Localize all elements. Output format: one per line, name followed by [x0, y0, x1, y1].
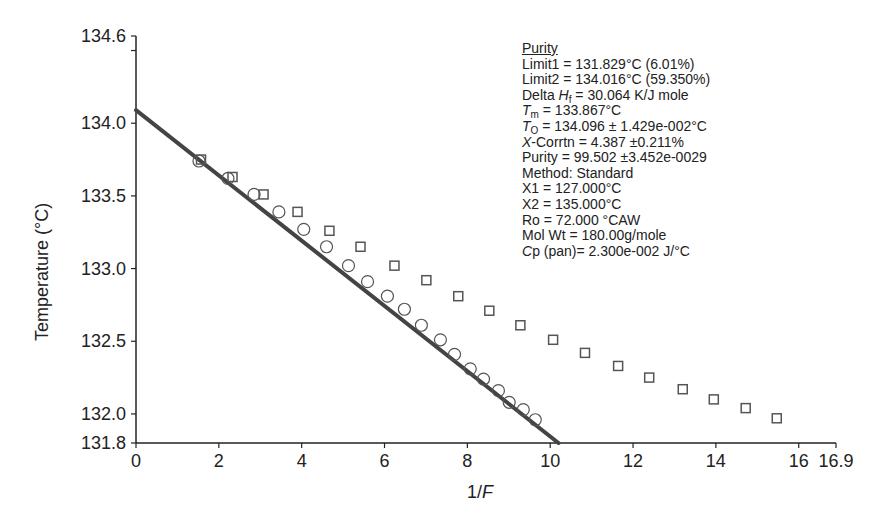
square-marker — [454, 292, 463, 301]
x-tick-label: 2 — [214, 451, 224, 471]
square-marker — [580, 348, 589, 357]
circle-marker — [298, 223, 310, 235]
square-marker — [709, 395, 718, 404]
circle-marker — [381, 290, 393, 302]
circle-marker — [362, 276, 374, 288]
x-tick-label: 0 — [131, 451, 141, 471]
info-x1: X1 = 127.000°C — [522, 181, 710, 197]
square-marker — [325, 226, 334, 235]
square-marker — [293, 207, 302, 216]
square-marker — [485, 306, 494, 315]
info-x2: X2 = 135.000°C — [522, 197, 710, 213]
x-tick-label: 12 — [623, 451, 643, 471]
square-marker — [549, 335, 558, 344]
y-tick-label: 132.5 — [81, 331, 126, 351]
square-marker — [772, 414, 781, 423]
y-tick-label: 131.8 — [81, 433, 126, 453]
info-title: Purity — [522, 41, 710, 57]
info-tm: Tm = 133.867°C — [522, 103, 710, 119]
circle-marker — [342, 260, 354, 272]
circle-marker — [449, 348, 461, 360]
square-marker — [356, 242, 365, 251]
info-limit1: Limit1 = 131.829°C (6.01%) — [522, 57, 710, 73]
x-tick-label: 6 — [380, 451, 390, 471]
x-tick-label: 16.9 — [818, 451, 853, 471]
info-ro: Ro = 72.000 °CAW — [522, 213, 710, 229]
y-tick-label: 134.6 — [81, 26, 126, 46]
y-axis-title: Temperature (°C) — [32, 203, 52, 341]
x-tick-label: 16 — [789, 451, 809, 471]
purity-chart: 024681012141616.9131.8132.0132.5133.0133… — [0, 0, 888, 520]
circle-marker — [434, 334, 446, 346]
square-marker — [390, 261, 399, 270]
square-marker — [678, 385, 687, 394]
circle-marker — [415, 319, 427, 331]
info-purity: Purity = 99.502 ±3.452e-0029 — [522, 150, 710, 166]
y-tick-label: 134.0 — [81, 113, 126, 133]
x-tick-label: 4 — [297, 451, 307, 471]
circle-marker — [248, 188, 260, 200]
info-molwt: Mol Wt = 180.00g/mole — [522, 228, 710, 244]
info-method: Method: Standard — [522, 166, 710, 182]
x-tick-label: 10 — [540, 451, 560, 471]
square-marker — [422, 276, 431, 285]
y-tick-label: 132.0 — [81, 404, 126, 424]
y-tick-label: 133.0 — [81, 259, 126, 279]
fit-line — [136, 110, 558, 443]
circle-marker — [273, 206, 285, 218]
x-tick-label: 14 — [706, 451, 726, 471]
info-to: TO = 134.096 ± 1.429e-002°C — [522, 119, 710, 135]
purity-info-panel: Purity Limit1 = 131.829°C (6.01%) Limit2… — [522, 41, 710, 259]
info-x-corrtn: X-Corrtn = 4.387 ±0.211% — [522, 135, 710, 151]
square-marker — [645, 373, 654, 382]
y-tick-label: 133.5 — [81, 186, 126, 206]
square-marker — [516, 321, 525, 330]
info-cp: Cp (pan)= 2.300e-002 J/°C — [522, 244, 710, 260]
axes: 024681012141616.9131.8132.0132.5133.0133… — [81, 26, 854, 471]
circle-marker — [398, 303, 410, 315]
info-limit2: Limit2 = 134.016°C (59.350%) — [522, 72, 710, 88]
x-axis-title: 1/F — [467, 482, 494, 502]
info-delta-hf: Delta Hf = 30.064 K/J mole — [522, 88, 710, 104]
square-marker — [614, 361, 623, 370]
circle-marker — [321, 241, 333, 253]
x-tick-label: 8 — [462, 451, 472, 471]
square-marker — [741, 404, 750, 413]
